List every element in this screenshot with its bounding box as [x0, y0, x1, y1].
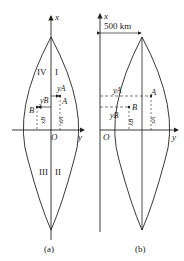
ya-label-a: yA	[56, 84, 66, 93]
yb-label-b: yB	[109, 111, 119, 120]
quadrant-i-label: I	[55, 67, 58, 77]
xa-label-a: xA	[57, 116, 65, 125]
quadrant-iii-label: III	[39, 167, 48, 177]
caption-b: (b)	[135, 244, 146, 254]
caption-a: (a)	[44, 244, 54, 254]
quadrant-iv-label: IV	[37, 67, 47, 77]
x-axis-label-b: x	[103, 11, 108, 21]
figure-a: x y O I II III IV yA A xA yB B xB (a)	[12, 12, 84, 254]
y-axis-label-b: y	[171, 132, 176, 142]
origin-label-a: O	[51, 132, 58, 142]
yb-label-a: yB	[39, 96, 49, 105]
point-b-marker-b	[128, 106, 130, 108]
ya-label-b: yA	[112, 86, 122, 95]
xb-label-b: xB	[127, 118, 135, 127]
offset-label: 500 km	[104, 21, 131, 31]
point-a-label-a: A	[61, 96, 68, 106]
point-b-label-b: B	[132, 102, 137, 112]
xa-label-b: xA	[149, 116, 157, 125]
x-axis-label-a: x	[54, 12, 59, 22]
origin-label-b: O	[103, 132, 110, 142]
quadrant-ii-label: II	[55, 167, 61, 177]
figure-b: 500 km x y O yA A xA yB B xB (b)	[100, 11, 178, 254]
point-a-label-b: A	[150, 87, 157, 97]
point-a-marker	[59, 95, 61, 97]
xb-label-a: xB	[39, 116, 47, 125]
point-b-label-a: B	[29, 105, 34, 115]
projection-zone-diagram: x y O I II III IV yA A xA yB B xB (a)	[0, 0, 184, 261]
y-axis-label-a: y	[77, 132, 82, 142]
point-b-marker-a	[36, 106, 38, 108]
